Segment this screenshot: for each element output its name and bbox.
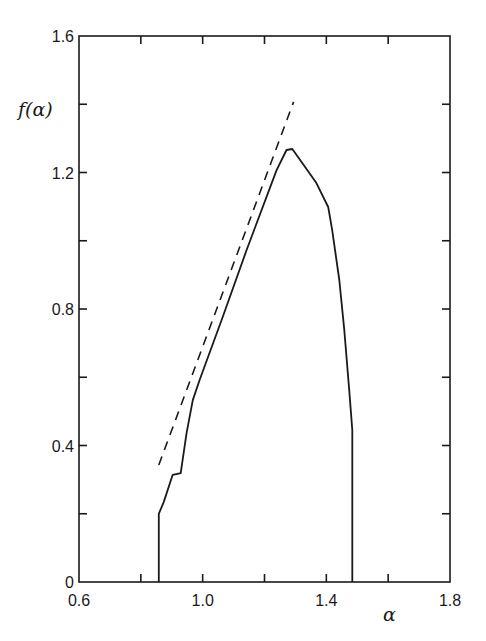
axis-ticks [79,36,450,582]
x-tick-label: 1.4 [315,592,337,609]
y-tick-label: 1.2 [52,165,74,182]
dashed-reference-line [159,102,294,465]
x-tick-label: 1.0 [192,592,214,609]
chart: 0.61.01.41.800.40.81.21.6 f(α) α [0,0,486,641]
y-tick-label: 0.8 [52,301,74,318]
y-tick-label: 0.4 [52,438,74,455]
y-tick-label: 0 [65,574,74,591]
x-tick-label: 1.8 [439,592,461,609]
f-alpha-curve [159,149,352,582]
y-tick-label: 1.6 [52,28,74,45]
y-axis-label: f(α) [16,98,53,120]
tick-labels: 0.61.01.41.800.40.81.21.6 [52,28,461,609]
plot-frame [79,36,450,582]
x-axis-label: α [383,603,396,625]
x-tick-label: 0.6 [68,592,90,609]
